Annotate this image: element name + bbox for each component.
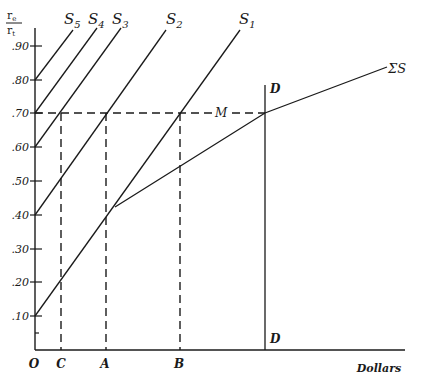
y-tick-label: .60 — [12, 141, 30, 154]
label-d-top: D — [269, 82, 281, 96]
label-c: C — [56, 357, 66, 371]
line-sum-s — [115, 67, 387, 207]
y-tick-label: .50 — [12, 175, 30, 188]
label-b: B — [173, 357, 184, 371]
y-tick-label: .40 — [12, 209, 30, 222]
x-labels: O C A B Dollars — [29, 357, 401, 375]
y-tick-labels: .10 .20 .30 .40 .50 .60 .70 .80 .90 — [12, 40, 30, 323]
y-ticks — [30, 46, 42, 333]
label-origin: O — [29, 357, 40, 371]
line-s3 — [35, 28, 121, 147]
y-tick-label: .70 — [12, 107, 30, 120]
label-s3: S3 — [112, 10, 129, 30]
dashed-lines — [35, 113, 265, 350]
supply-demand-chart: .10 .20 .30 .40 .50 .60 .70 .80 .90 re r… — [0, 0, 422, 384]
y-tick-label: .30 — [12, 243, 30, 256]
line-s4 — [35, 28, 97, 113]
label-d-bottom: D — [269, 332, 281, 346]
label-s5: S5 — [64, 10, 81, 30]
svg-text:re: re — [7, 9, 16, 23]
y-tick-label: .80 — [12, 74, 30, 87]
y-axis-title: re rt — [6, 9, 22, 38]
y-tick-label: .90 — [12, 40, 30, 53]
label-sum-s: ΣS — [387, 61, 406, 76]
svg-text:rt: rt — [7, 24, 15, 38]
x-axis-title: Dollars — [356, 362, 401, 375]
label-a: A — [99, 357, 109, 371]
label-s2: S2 — [166, 10, 183, 30]
series-labels: S5 S4 S3 S2 S1 ΣS M D D — [64, 10, 406, 346]
label-s1: S1 — [239, 10, 256, 30]
y-tick-label: .20 — [12, 276, 30, 289]
label-s4: S4 — [88, 10, 105, 30]
line-s5 — [35, 30, 73, 80]
y-tick-label: .10 — [12, 310, 30, 323]
supply-lines — [35, 28, 387, 350]
line-s1 — [35, 30, 240, 316]
label-m: M — [214, 106, 228, 120]
axes — [35, 28, 405, 350]
